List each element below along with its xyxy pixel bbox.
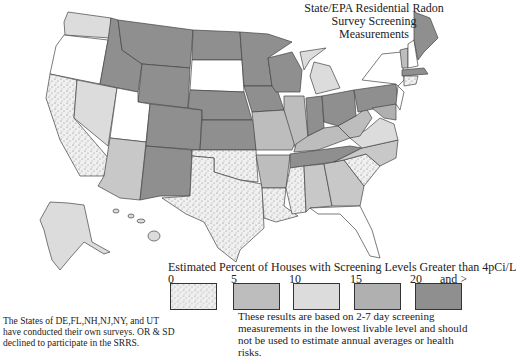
state-ma <box>402 68 428 76</box>
legend-swatch-10-15 <box>293 283 340 310</box>
state-hi <box>113 209 160 241</box>
map-title: State/EPA Residential Radon Survey Scree… <box>299 2 449 41</box>
state-sd <box>190 60 244 92</box>
legend-swatch-15-20 <box>354 283 401 310</box>
legend-swatch-0-5 <box>170 283 217 310</box>
state-wa <box>64 12 111 38</box>
state-wi <box>268 52 302 92</box>
state-fl <box>310 206 380 258</box>
state-mi <box>300 48 340 94</box>
legend-swatch-5-10 <box>233 283 280 310</box>
state-ny <box>362 52 404 86</box>
state-co <box>146 104 202 150</box>
state-ks <box>200 120 256 150</box>
state-nd <box>192 30 242 60</box>
state-ms <box>286 166 306 214</box>
state-ct <box>404 76 418 86</box>
state-nj <box>396 86 404 110</box>
state-nm <box>140 146 192 200</box>
disclaimer-note: These results are based on 2-7 day scree… <box>238 310 470 357</box>
map-title-line2: Survey Screening Measurements <box>299 15 449 41</box>
state-ar <box>256 155 290 188</box>
legend-swatch-20-plus <box>415 283 462 310</box>
state-wy <box>138 64 190 108</box>
state-ak <box>40 202 110 270</box>
state-az <box>98 138 146 200</box>
survey-footnote: The States of DE,FL,NH,NJ,NY, and UT hav… <box>3 316 175 349</box>
